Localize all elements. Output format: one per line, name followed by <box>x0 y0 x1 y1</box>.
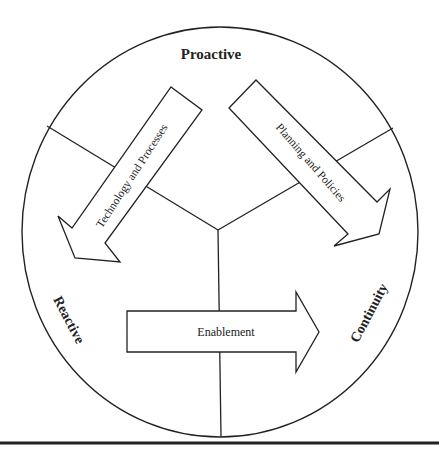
planning-arrow: Planning and Policies <box>229 80 390 246</box>
cycle-diagram: Technology and Processes Planning and Po… <box>0 0 439 457</box>
continuity-label: Continuity <box>347 281 391 345</box>
enablement-arrow-label: Enablement <box>197 325 255 339</box>
enablement-arrow: Enablement <box>127 292 319 372</box>
technology-arrow-label: Technology and Processes <box>94 121 171 230</box>
technology-arrow: Technology and Processes <box>58 87 202 262</box>
reactive-label: Reactive <box>50 294 87 346</box>
proactive-label: Proactive <box>181 46 242 62</box>
